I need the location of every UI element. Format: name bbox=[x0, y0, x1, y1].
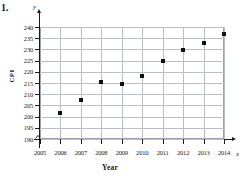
figure-container: 1. y x CPI Year 190195200205210215220225… bbox=[0, 0, 247, 177]
y-tick bbox=[35, 117, 40, 118]
y-tick-label: 240 bbox=[11, 24, 33, 31]
y-tick-label: 215 bbox=[11, 80, 33, 87]
gridline-horizontal bbox=[40, 105, 224, 106]
x-tick-label: 2014 bbox=[212, 149, 236, 157]
gridline-horizontal bbox=[40, 117, 224, 118]
data-point bbox=[58, 111, 62, 115]
data-point bbox=[79, 98, 83, 102]
y-tick bbox=[35, 128, 40, 129]
gridline-horizontal bbox=[40, 139, 224, 140]
x-axis-title: Year bbox=[102, 163, 118, 172]
x-tick bbox=[204, 139, 205, 144]
data-point bbox=[181, 48, 185, 52]
y-tick bbox=[35, 38, 40, 39]
x-tick bbox=[224, 139, 225, 144]
y-tick-label: 220 bbox=[11, 68, 33, 75]
gridline-vertical bbox=[183, 27, 184, 139]
gridline-vertical bbox=[81, 27, 82, 139]
y-tick-label: 205 bbox=[11, 102, 33, 109]
x-tick bbox=[163, 139, 164, 144]
plot-area bbox=[40, 27, 224, 139]
data-point bbox=[140, 74, 144, 78]
y-tick bbox=[35, 94, 40, 95]
y-tick bbox=[35, 72, 40, 73]
y-tick bbox=[35, 105, 40, 106]
y-tick-label: 210 bbox=[11, 91, 33, 98]
gridline-horizontal bbox=[40, 72, 224, 73]
x-tick bbox=[81, 139, 82, 144]
gridline-vertical bbox=[142, 27, 143, 139]
gridline-horizontal bbox=[40, 49, 224, 50]
gridline-horizontal bbox=[40, 94, 224, 95]
question-number: 1. bbox=[1, 2, 9, 13]
data-point bbox=[222, 32, 226, 36]
x-axis-symbol: x bbox=[236, 150, 239, 158]
y-tick-label: 200 bbox=[11, 113, 33, 120]
y-tick bbox=[35, 49, 40, 50]
data-point bbox=[120, 82, 124, 86]
gridline-horizontal bbox=[40, 83, 224, 84]
gridline-vertical bbox=[224, 27, 225, 139]
data-point bbox=[161, 59, 165, 63]
y-tick bbox=[35, 83, 40, 84]
x-tick bbox=[40, 139, 41, 144]
x-tick bbox=[60, 139, 61, 144]
y-tick-label: 230 bbox=[11, 46, 33, 53]
x-tick bbox=[101, 139, 102, 144]
gridline-vertical bbox=[163, 27, 164, 139]
gridline-vertical bbox=[60, 27, 61, 139]
x-axis-arrow-icon bbox=[232, 137, 236, 141]
y-tick-label: 235 bbox=[11, 35, 33, 42]
x-tick bbox=[122, 139, 123, 144]
x-tick bbox=[183, 139, 184, 144]
x-tick bbox=[142, 139, 143, 144]
y-tick-label: 190 bbox=[11, 136, 33, 143]
data-point bbox=[202, 41, 206, 45]
y-tick bbox=[35, 61, 40, 62]
y-axis-arrow-icon bbox=[37, 9, 41, 13]
gridline-horizontal bbox=[40, 27, 224, 28]
data-point bbox=[99, 80, 103, 84]
y-tick-label: 225 bbox=[11, 57, 33, 64]
gridline-horizontal bbox=[40, 128, 224, 129]
y-tick-label: 195 bbox=[11, 124, 33, 131]
gridline-horizontal bbox=[40, 38, 224, 39]
gridline-horizontal bbox=[40, 61, 224, 62]
y-tick bbox=[35, 27, 40, 28]
